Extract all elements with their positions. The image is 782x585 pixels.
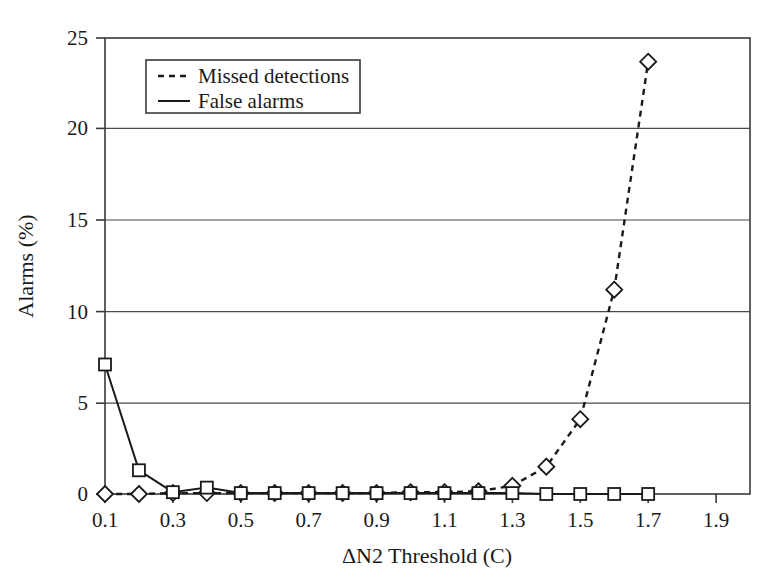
x-tick-label: 0.1 — [92, 508, 118, 532]
data-point-marker — [201, 482, 213, 494]
y-tick-label: 0 — [78, 482, 89, 506]
data-point-marker — [133, 464, 145, 476]
legend-label-false-alarms: False alarms — [198, 89, 304, 113]
data-point-marker — [438, 487, 450, 499]
x-tick-label: 0.9 — [363, 508, 389, 532]
x-tick-label: 1.3 — [499, 508, 525, 532]
chart-figure: 0 5 10 15 20 25 0.1 0.3 0.5 0.7 0.9 — [0, 0, 782, 585]
x-tick-label: 1.1 — [431, 508, 457, 532]
y-tick-label: 15 — [67, 208, 88, 232]
data-point-marker — [269, 487, 281, 499]
series-line — [105, 365, 648, 495]
y-tick-labels: 0 5 10 15 20 25 — [67, 26, 88, 506]
data-point-marker — [640, 54, 656, 70]
gridlines-horizontal — [105, 128, 750, 403]
y-tick-label: 5 — [78, 391, 89, 415]
chart-canvas: 0 5 10 15 20 25 0.1 0.3 0.5 0.7 0.9 — [0, 0, 782, 585]
y-tick-label: 25 — [67, 26, 88, 50]
data-point-marker — [472, 487, 484, 499]
data-point-marker — [235, 487, 247, 499]
data-point-marker — [538, 459, 554, 475]
x-tick-label: 1.9 — [703, 508, 729, 532]
data-point-marker — [131, 486, 147, 502]
y-tick-label: 20 — [67, 116, 88, 140]
y-tick-label: 10 — [67, 300, 88, 324]
data-point-marker — [606, 282, 622, 298]
data-point-marker — [642, 488, 654, 500]
data-point-marker — [167, 486, 179, 498]
x-tick-label: 0.5 — [228, 508, 254, 532]
x-tick-label: 0.3 — [160, 508, 186, 532]
x-tick-label: 1.7 — [635, 508, 661, 532]
data-point-marker — [97, 486, 113, 502]
y-axis-title: Alarms (%) — [13, 214, 38, 317]
data-point-marker — [574, 488, 586, 500]
series-false-alarms — [99, 359, 654, 501]
legend-label-missed-detections: Missed detections — [198, 64, 349, 88]
x-tick-label: 1.5 — [567, 508, 593, 532]
data-point-marker — [303, 487, 315, 499]
data-point-marker — [405, 487, 417, 499]
x-axis-title: ΔN2 Threshold (C) — [342, 543, 512, 568]
data-point-marker — [572, 411, 588, 427]
data-point-marker — [99, 359, 111, 371]
data-point-marker — [608, 488, 620, 500]
x-tick-label: 0.7 — [296, 508, 322, 532]
x-tick-labels: 0.1 0.3 0.5 0.7 0.9 1.1 1.3 1.5 1.7 1.9 — [92, 508, 729, 532]
y-axis-ticks — [96, 38, 105, 494]
series-line — [105, 62, 648, 494]
chart-legend: Missed detections False alarms — [146, 60, 360, 113]
data-point-marker — [506, 487, 518, 499]
data-point-marker — [540, 488, 552, 500]
data-series-layer — [97, 54, 656, 502]
series-missed-detections — [97, 54, 656, 502]
data-point-marker — [337, 487, 349, 499]
data-point-marker — [371, 487, 383, 499]
